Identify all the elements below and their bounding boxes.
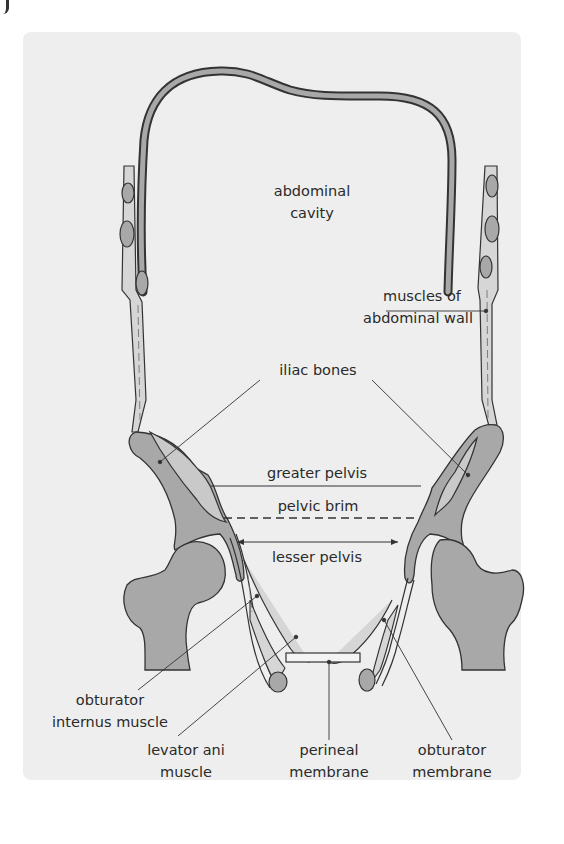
label-perineal-membrane-1: perineal [299,742,358,758]
peritoneum-outline [141,71,452,292]
label-obturator-internus-1: obturator [76,692,144,708]
label-pelvic-brim: pelvic brim [278,498,359,514]
label-muscles-abdominal-wall-1: muscles of [383,288,462,304]
pelvis-cross-section-diagram: abdominal cavity muscles of abdominal wa… [0,0,564,844]
label-abdominal-cavity-1: abdominal [274,183,350,199]
label-abdominal-cavity-2: cavity [290,205,334,221]
right-abdominal-wall [478,166,499,430]
label-obturator-membrane-1: obturator [418,742,486,758]
label-lesser-pelvis: lesser pelvis [272,549,362,565]
label-levator-ani-1: levator ani [147,742,225,758]
right-femur [431,540,523,670]
label-perineal-membrane-2: membrane [289,764,368,780]
left-ischial-tuberosity [269,672,287,692]
label-iliac-bones: iliac bones [279,362,356,378]
label-obturator-internus-2: internus muscle [52,714,168,730]
label-obturator-membrane-2: membrane [412,764,491,780]
left-femur [124,542,225,670]
perineal-membrane-band [286,653,360,662]
label-greater-pelvis: greater pelvis [267,465,367,481]
label-levator-ani-2: muscle [160,764,212,780]
label-muscles-abdominal-wall-2: abdominal wall [363,310,473,326]
right-ischial-tuberosity [359,669,375,691]
